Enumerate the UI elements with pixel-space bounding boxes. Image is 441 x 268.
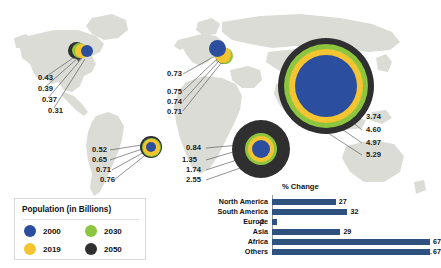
- bar-value-5: 67: [433, 248, 441, 256]
- bubble-cluster-south-america: [140, 136, 162, 158]
- bubble-cluster-north-america: [68, 40, 102, 68]
- bar-1: [272, 209, 347, 215]
- value-label-asia-2: 4.97: [366, 139, 381, 147]
- bar-row-1: South America 32: [196, 208, 434, 216]
- bar-row-2: Europe -2: [196, 218, 434, 226]
- ring-sa-2000: [146, 142, 156, 152]
- legend-label-2050: 2050: [104, 245, 122, 254]
- value-label-europe-3: 0.71: [167, 108, 182, 116]
- legend-label-2000: 2000: [43, 227, 61, 236]
- bar-2: [272, 219, 277, 225]
- bar-category-0: North America: [219, 198, 268, 206]
- value-label-africa-0: 0.84: [186, 144, 201, 152]
- bubble-cluster-asia: [278, 38, 374, 134]
- value-label-europe-1: 0.75: [167, 88, 182, 96]
- bar-category-4: Africa: [248, 238, 268, 246]
- bar-row-5: Others 67: [196, 248, 434, 256]
- bar-value-0: 27: [339, 198, 347, 206]
- legend-swatch-2030: [85, 225, 97, 237]
- value-label-north-america-3: 0.31: [48, 107, 63, 115]
- legend-item-2050: 2050: [85, 243, 122, 255]
- bar-category-1: South America: [218, 208, 268, 216]
- bar-row-3: Asia 29: [196, 228, 434, 236]
- bar-value-3: 29: [343, 228, 351, 236]
- legend-panel: Population (in Billions) 2000 2030 2019 …: [14, 198, 146, 260]
- bar-row-4: Africa 67: [196, 238, 434, 246]
- value-label-south-america-2: 0.71: [96, 166, 111, 174]
- legend-item-2000: 2000: [24, 225, 61, 237]
- legend-swatch-2000: [24, 225, 36, 237]
- value-label-north-america-2: 0.37: [42, 96, 57, 104]
- bar-5: [272, 249, 430, 255]
- bar-3: [272, 229, 340, 235]
- bar-row-0: North America 27: [196, 198, 434, 206]
- legend-swatch-2019: [24, 243, 36, 255]
- value-label-asia-0: 3.74: [366, 113, 381, 121]
- ring-af-2000: [252, 140, 270, 158]
- legend-item-2030: 2030: [85, 225, 122, 237]
- value-label-asia-1: 4.60: [366, 126, 381, 134]
- ring-eu-2000: [209, 40, 226, 57]
- bar-value-2: -2: [258, 218, 264, 226]
- percent-change-bar-chart: % Change North America 27 South America …: [196, 182, 434, 260]
- value-label-europe-0: 0.73: [167, 70, 182, 78]
- legend-title: Population (in Billions): [22, 205, 111, 214]
- bar-chart-title: % Change: [282, 182, 319, 191]
- value-label-north-america-1: 0.39: [38, 85, 53, 93]
- bubble-cluster-europe: [208, 40, 242, 68]
- legend-divider: [22, 219, 140, 220]
- bar-value-4: 67: [433, 238, 441, 246]
- bar-category-3: Asia: [253, 228, 268, 236]
- value-label-asia-3: 5.29: [366, 151, 381, 159]
- bar-category-5: Others: [245, 248, 268, 256]
- legend-item-2019: 2019: [24, 243, 61, 255]
- ring-na-2000: [81, 45, 93, 57]
- value-label-north-america-0: 0.43: [38, 74, 53, 82]
- value-label-europe-2: 0.74: [167, 98, 182, 106]
- ring-as-2000: [295, 55, 357, 117]
- legend-swatch-2050: [85, 243, 97, 255]
- bar-0: [272, 199, 336, 205]
- value-label-south-america-3: 0.76: [100, 176, 115, 184]
- bar-4: [272, 239, 430, 245]
- value-label-africa-2: 1.74: [186, 166, 201, 174]
- legend-label-2030: 2030: [104, 227, 122, 236]
- value-label-south-america-0: 0.52: [92, 146, 107, 154]
- value-label-south-america-1: 0.65: [92, 156, 107, 164]
- legend-label-2019: 2019: [43, 245, 61, 254]
- value-label-africa-1: 1.35: [182, 156, 197, 164]
- bar-value-1: 32: [350, 208, 358, 216]
